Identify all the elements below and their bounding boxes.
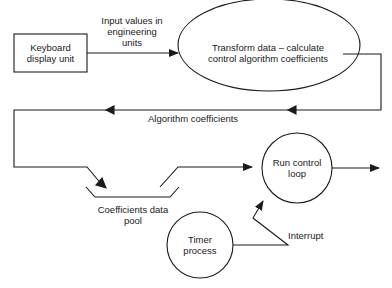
transform-label: Transform data – calculate control algor… — [188, 42, 348, 64]
run-control-label: Run control loop — [262, 157, 332, 179]
pool-exit-path — [160, 167, 252, 187]
coefficients-edge-label: Algorithm coefficients — [148, 113, 238, 124]
coefficients-arrowhead-right — [106, 106, 114, 114]
keyboard-label: Keyboard display unit — [14, 42, 87, 64]
pool-label: Coefficients data pool — [90, 204, 176, 226]
timer-label: Timer process — [167, 234, 233, 256]
coefficients-arrowhead-left — [288, 106, 296, 114]
data-pool-shape — [86, 187, 179, 197]
interrupt-edge-label: Interrupt — [288, 230, 323, 241]
input-edge-label: Input values in engineering units — [92, 15, 172, 48]
interrupt-path — [233, 201, 288, 245]
